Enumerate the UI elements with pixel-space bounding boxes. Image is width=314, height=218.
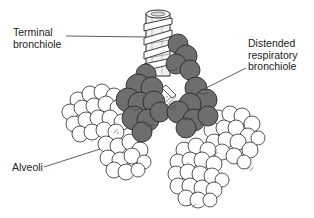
label-distended-line2: respiratory (248, 49, 298, 61)
label-terminal-line2: bronchiole (13, 38, 61, 50)
terminal-bronchiole-leader-line (66, 36, 146, 37)
diagram-canvas: Terminal bronchiole Distended respirator… (0, 0, 314, 218)
label-alveoli-text: Alveoli (12, 161, 43, 173)
label-distended-respiratory-bronchiole: Distended respiratory bronchiole (248, 38, 298, 73)
label-terminal-bronchiole: Terminal bronchiole (13, 27, 61, 50)
junction-shading (166, 96, 176, 110)
label-distended-line1: Distended (248, 37, 295, 49)
label-terminal-line1: Terminal (13, 26, 53, 38)
distended-bronchiole-leader-line (206, 68, 246, 88)
label-alveoli: Alveoli (12, 162, 43, 174)
alveoli-leader-line (44, 149, 100, 167)
label-distended-line3: bronchiole (248, 60, 296, 72)
